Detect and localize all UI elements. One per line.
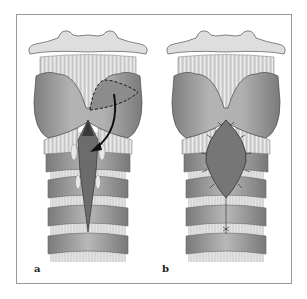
panel-b-label: b (162, 263, 169, 274)
larynx-illustration (0, 0, 307, 299)
panel-a-label: a (34, 263, 40, 274)
panel-a-illustration (29, 31, 147, 262)
panel-b-illustration (167, 31, 285, 262)
